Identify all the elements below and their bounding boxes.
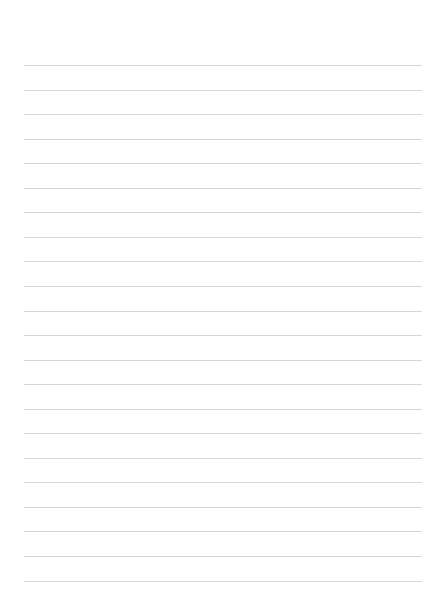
ruled-line <box>24 384 422 385</box>
ruled-line <box>24 335 422 336</box>
ruled-line <box>24 163 422 164</box>
ruled-line <box>24 311 422 312</box>
ruled-line <box>24 90 422 91</box>
ruled-line <box>24 114 422 115</box>
ruled-line <box>24 581 422 582</box>
ruled-line <box>24 237 422 238</box>
ruled-line <box>24 139 422 140</box>
ruled-line <box>24 188 422 189</box>
ruled-line <box>24 65 422 66</box>
ruled-line <box>24 531 422 532</box>
ruled-line <box>24 556 422 557</box>
ruled-line <box>24 261 422 262</box>
ruled-line <box>24 507 422 508</box>
ruled-line <box>24 433 422 434</box>
ruled-line <box>24 286 422 287</box>
ruled-line <box>24 409 422 410</box>
ruled-line <box>24 458 422 459</box>
ruled-line <box>24 360 422 361</box>
ruled-line <box>24 482 422 483</box>
lined-paper-page <box>0 0 447 602</box>
ruled-line <box>24 212 422 213</box>
